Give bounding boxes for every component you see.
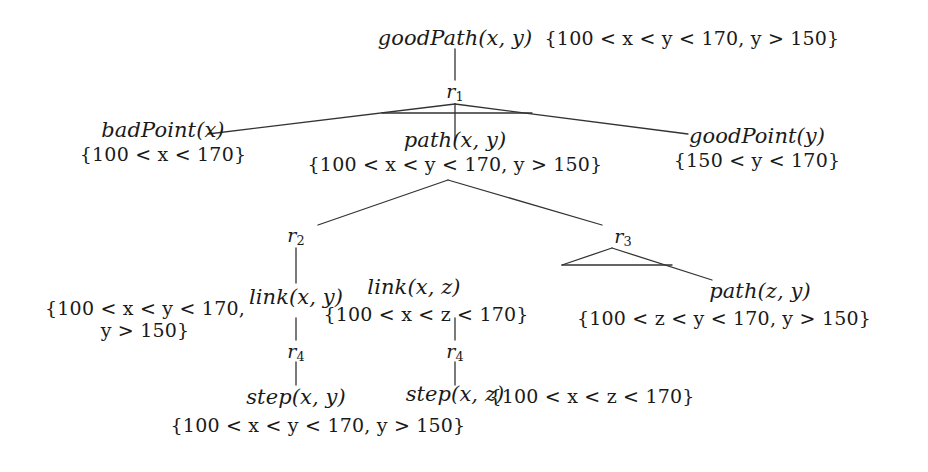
node-path-zy-atom: path(z, y) (709, 279, 811, 304)
link-xy-constraint: {100 < x < y < 170, y > 150} (45, 297, 245, 342)
edge-r3-pathzy (612, 248, 712, 280)
rule-r4-left-index: 4 (296, 349, 304, 364)
rule-label-r2: r2 (287, 224, 304, 249)
rule-r1-index: 1 (455, 89, 463, 104)
node-path-xy-constraint: {100 < x < y < 170, y > 150} (308, 153, 603, 175)
rule-r3-index: 3 (623, 234, 631, 249)
rule-label-r4-right: r4 (446, 340, 463, 365)
node-link-xz-atom: link(x, z) (367, 275, 460, 300)
node-goodpoint-constraint: {150 < y < 170} (674, 149, 840, 171)
node-step-xy-atom: step(x, y) (246, 385, 346, 410)
rule-label-r4-left: r4 (287, 340, 304, 365)
edge-path-r3 (448, 180, 602, 225)
link-xy-constraint-line2: y > 150} (45, 319, 245, 341)
link-xy-constraint-line1: {100 < x < y < 170, (45, 297, 245, 319)
rule-label-r3: r3 (614, 225, 631, 250)
node-link-xz-constraint: {100 < x < z < 170} (323, 303, 528, 325)
derivation-tree-diagram: goodPath(x, y) {100 < x < y < 170, y > 1… (0, 0, 928, 472)
rule-r4-left-name: r (287, 340, 296, 362)
node-step-xy-constraint: {100 < x < y < 170, y > 150} (171, 414, 466, 436)
edge-path-r2 (318, 180, 448, 225)
rule-r1-name: r (446, 80, 455, 102)
node-path-xy: path(x, y) {100 < x < y < 170, y > 150} (308, 128, 603, 175)
rule-r2-index: 2 (296, 233, 304, 248)
node-badpoint-constraint: {100 < x < 170} (80, 143, 246, 165)
rule-label-r1: r1 (446, 80, 463, 105)
node-badpoint-atom: badPoint(x) (80, 118, 246, 143)
rule-r3-name: r (614, 225, 623, 247)
rule-r2-name: r (287, 224, 296, 246)
root-constraint: {100 < x < y < 170, y > 150} (545, 27, 840, 49)
node-step-xz-constraint: {100 < x < z < 170} (489, 385, 694, 407)
node-goodpoint-atom: goodPoint(y) (674, 124, 840, 149)
node-path-zy-constraint: {100 < z < y < 170, y > 150} (577, 307, 871, 329)
rule-r4-right-index: 4 (455, 349, 463, 364)
rule-r4-right-name: r (446, 340, 455, 362)
edge-r3-linkxz (562, 248, 612, 265)
node-path-xy-atom: path(x, y) (308, 128, 603, 153)
node-goodpath: goodPath(x, y) (378, 26, 533, 51)
node-badpoint: badPoint(x) {100 < x < 170} (80, 118, 246, 165)
node-goodpoint: goodPoint(y) {150 < y < 170} (674, 124, 840, 171)
